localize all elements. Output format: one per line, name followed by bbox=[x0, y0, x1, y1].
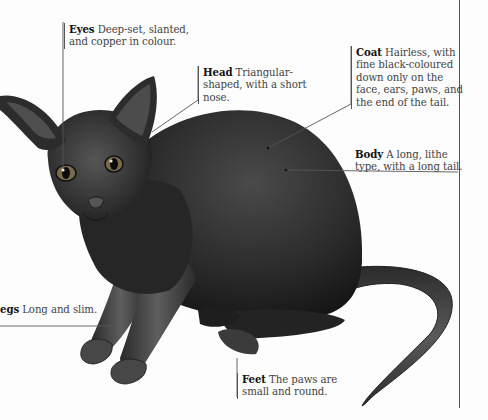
callout-coat-heading: Coat bbox=[356, 46, 382, 58]
callout-coat: Coat Hairless, with fine black-coloured … bbox=[351, 46, 464, 109]
callout-eyes-heading: Eyes bbox=[69, 23, 95, 35]
cat-eye-left bbox=[56, 165, 76, 181]
callout-body-heading: Body bbox=[355, 148, 383, 160]
callout-feet-heading: Feet bbox=[242, 373, 266, 385]
callout-body: Body A long, lithe type, with a long tai… bbox=[355, 148, 465, 174]
cat-eye-right bbox=[105, 156, 123, 172]
callout-head-heading: Head bbox=[203, 66, 232, 78]
document-page: Eyes Deep-set, slanted, and copper in co… bbox=[0, 0, 488, 420]
cat-front-paw-left bbox=[81, 339, 113, 364]
cat-front-paw-right bbox=[111, 359, 146, 384]
callout-feet: Feet The paws are small and round. bbox=[237, 373, 342, 399]
callout-legs-text: Long and slim. bbox=[19, 304, 97, 315]
callout-eyes: Eyes Deep-set, slanted, and copper in co… bbox=[64, 23, 189, 49]
callout-legs: egs Long and slim. bbox=[0, 303, 114, 316]
callout-legs-heading: egs bbox=[0, 303, 19, 315]
cat-tail bbox=[350, 266, 452, 406]
callout-head: Head Triangular-shaped, with a short nos… bbox=[198, 66, 313, 104]
